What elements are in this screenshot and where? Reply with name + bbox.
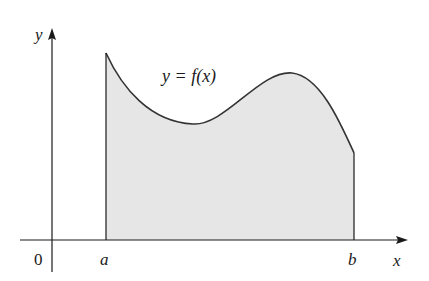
y-axis-label: y	[33, 25, 43, 44]
diagram-canvas: y x 0 a b y = f(x)	[0, 0, 429, 281]
x-axis-label: x	[392, 251, 401, 270]
curve-label: y = f(x)	[160, 66, 216, 87]
origin-label: 0	[34, 250, 43, 269]
upper-bound-label: b	[348, 250, 357, 269]
area-under-curve-figure: y x 0 a b y = f(x)	[0, 0, 429, 281]
lower-bound-label: a	[100, 250, 109, 269]
shaded-area	[106, 53, 354, 240]
